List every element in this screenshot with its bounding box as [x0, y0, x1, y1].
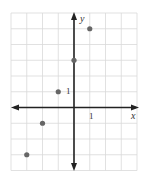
- data-point: [71, 58, 76, 63]
- x-axis-left-arrow-icon: [11, 105, 19, 111]
- y-tick-label-1: 1: [66, 86, 71, 96]
- coordinate-plane: x y 1 1: [0, 0, 144, 178]
- data-point: [87, 26, 92, 31]
- y-axis-down-arrow-icon: [71, 163, 77, 171]
- data-point: [24, 152, 29, 157]
- data-point: [40, 121, 45, 126]
- y-axis-label: y: [79, 13, 85, 24]
- x-tick-label-1: 1: [89, 111, 94, 121]
- x-axis-label: x: [130, 110, 136, 121]
- data-point: [56, 89, 61, 94]
